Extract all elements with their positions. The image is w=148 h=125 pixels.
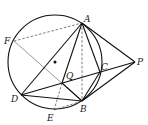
label-D: D	[10, 94, 18, 104]
label-A: A	[83, 14, 91, 24]
segment-DP	[21, 62, 135, 95]
point-labels: A F P C Q D B E	[3, 14, 144, 123]
geometry-diagram: A F P C Q D B E	[0, 0, 148, 125]
center-dot	[54, 61, 57, 64]
segment-AD	[21, 23, 82, 95]
label-P: P	[136, 57, 144, 67]
segment-FA	[14, 23, 82, 41]
label-Q: Q	[66, 71, 74, 81]
label-B: B	[79, 104, 87, 114]
segment-PB	[82, 62, 135, 101]
segment-EB	[54, 101, 82, 110]
segment-AP	[82, 23, 135, 62]
segment-AC	[82, 23, 100, 72]
segment-QB	[62, 83, 82, 101]
label-F: F	[3, 36, 11, 46]
segment-DB	[21, 95, 82, 101]
label-C: C	[101, 62, 108, 72]
segment-QE	[54, 83, 62, 110]
label-E: E	[46, 113, 54, 123]
